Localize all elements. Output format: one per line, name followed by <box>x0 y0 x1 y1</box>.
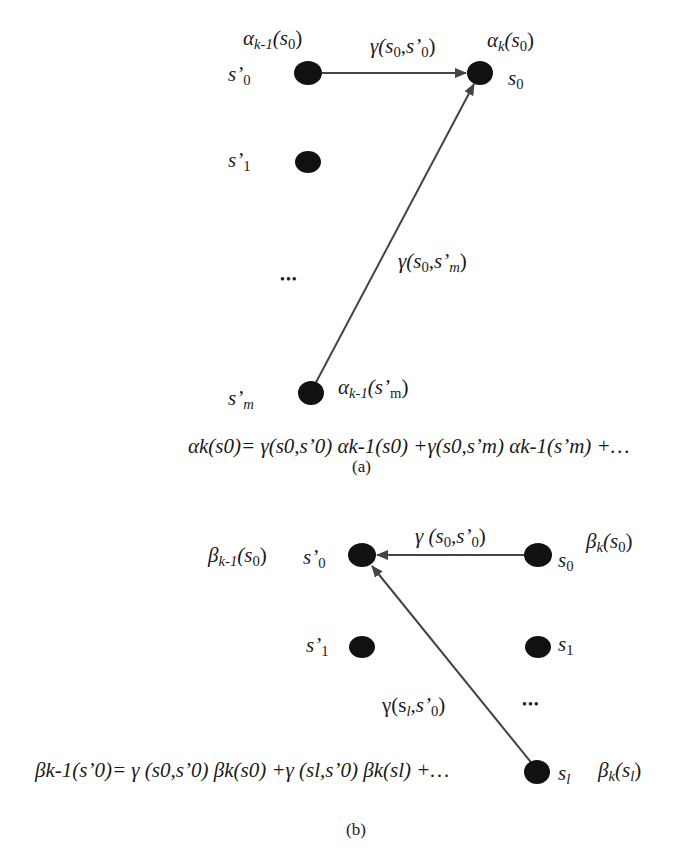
node-a-s-prime-1 <box>295 151 321 173</box>
gamma-s0-sp0-label-b: γ (s0,s’0) <box>415 526 486 547</box>
node-a-s-prime-m <box>298 381 324 405</box>
s-prime-m-label-a: s’m <box>228 388 254 409</box>
s-l-label-b: sl <box>558 763 570 784</box>
node-a-s-0 <box>467 61 493 85</box>
edge-b-sl-to-sp0 <box>372 566 534 766</box>
alpha-k-s0-label: αk(s0) <box>487 30 534 51</box>
ellipsis-b: ••• <box>522 698 540 712</box>
gamma-s0-spm-label: γ(s0,s’m) <box>398 251 467 272</box>
alpha-km1-spm-label: αk-1(s’m) <box>338 377 408 398</box>
caption-b: (b) <box>346 820 366 840</box>
s-prime-1-label-a: s’1 <box>228 150 251 171</box>
caption-a: (a) <box>352 457 371 477</box>
edge-a-spm-to-s0 <box>313 84 474 388</box>
s-prime-0-label-b: s’0 <box>303 547 326 568</box>
node-b-s-0 <box>524 543 552 567</box>
node-b-s-1 <box>525 636 551 658</box>
node-a-s-prime-0 <box>294 61 322 85</box>
node-b-s-prime-0 <box>348 543 376 567</box>
trellis-diagram <box>0 0 690 861</box>
s-1-label-b: s1 <box>558 634 574 655</box>
alpha-km1-s0-label: αk-1(s0) <box>243 28 302 49</box>
beta-k-sl-label: βk(sl) <box>598 760 641 781</box>
s-prime-1-label-b: s’1 <box>306 635 329 656</box>
alpha-recursion-formula: αk(s0)= γ(s0,s’0) αk-1(s0) +γ(s0,s’m) αk… <box>188 436 629 457</box>
beta-km1-s0-label: βk-1(s0) <box>208 545 267 566</box>
s-0-label-b: s0 <box>558 550 574 571</box>
node-b-s-prime-1 <box>349 636 375 658</box>
s-prime-0-label-a: s’0 <box>228 64 251 85</box>
ellipsis-a: ••• <box>280 273 298 287</box>
beta-recursion-formula: βk-1(s’0)= γ (s0,s’0) βk(s0) +γ (sl,s’0)… <box>35 760 449 781</box>
gamma-sl-sp0-label: γ(sl,s’0) <box>382 695 445 716</box>
s-0-label-a: s0 <box>508 68 524 89</box>
node-b-s-l <box>524 760 550 784</box>
gamma-s0-sp0-label-a: γ(s0,s’0) <box>370 36 436 57</box>
beta-k-s0-label: βk(s0) <box>586 531 633 552</box>
